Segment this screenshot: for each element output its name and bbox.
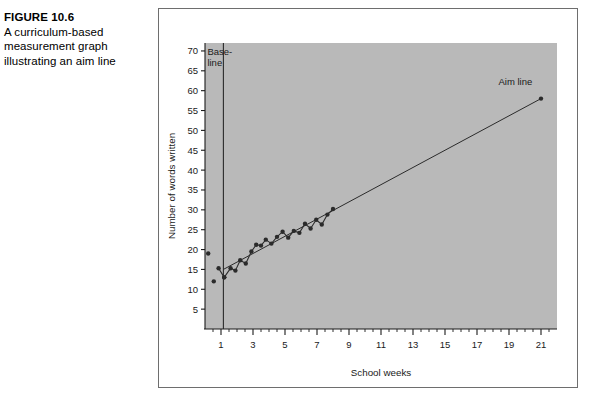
data-point-marker xyxy=(264,237,268,241)
data-point-marker xyxy=(206,251,210,255)
x-tick-label: 1 xyxy=(218,339,223,350)
data-point-marker xyxy=(297,231,301,235)
y-tick-label: 25 xyxy=(187,224,198,235)
figure-caption-line-3: illustrating an aim line xyxy=(4,54,149,69)
y-tick-label: 35 xyxy=(187,184,198,195)
x-tick-label: 7 xyxy=(314,339,319,350)
x-axis-title: School weeks xyxy=(351,367,412,378)
figure-caption-text: A curriculum-based measurement graph ill… xyxy=(4,25,149,69)
y-tick-label: 45 xyxy=(187,145,198,156)
y-tick-label: 30 xyxy=(187,204,198,215)
data-point-marker xyxy=(539,96,543,100)
figure-number: FIGURE 10.6 xyxy=(4,10,149,25)
figure-frame: 5101520253035404550556065701357911131517… xyxy=(158,8,578,388)
y-axis-title: Number of words written xyxy=(166,133,177,239)
y-tick-label: 55 xyxy=(187,105,198,116)
y-tick-label: 20 xyxy=(187,244,198,255)
data-point-marker xyxy=(212,279,216,283)
figure-caption-line-1: A curriculum-based xyxy=(4,25,149,40)
baseline-label: Base- xyxy=(207,46,232,57)
aim-line-label: Aim line xyxy=(499,76,533,87)
y-tick-label: 65 xyxy=(187,65,198,76)
y-tick-label: 70 xyxy=(187,45,198,56)
x-tick-label: 21 xyxy=(536,339,547,350)
data-point-marker xyxy=(233,268,237,272)
x-tick-label: 13 xyxy=(408,339,419,350)
y-tick-label: 10 xyxy=(187,284,198,295)
figure-caption-block: FIGURE 10.6 A curriculum-based measureme… xyxy=(4,10,149,68)
data-point-marker xyxy=(280,229,284,233)
figure-caption-line-2: measurement graph xyxy=(4,39,149,54)
data-point-marker xyxy=(259,243,263,247)
x-tick-label: 5 xyxy=(282,339,287,350)
data-point-marker xyxy=(320,222,324,226)
data-point-marker xyxy=(216,266,220,270)
y-tick-label: 15 xyxy=(187,264,198,275)
curriculum-measurement-chart: 5101520253035404550556065701357911131517… xyxy=(159,9,579,389)
x-tick-label: 3 xyxy=(250,339,255,350)
data-point-marker xyxy=(222,275,226,279)
data-point-marker xyxy=(308,226,312,230)
x-tick-label: 17 xyxy=(472,339,483,350)
y-tick-label: 40 xyxy=(187,165,198,176)
x-tick-label: 15 xyxy=(440,339,451,350)
y-tick-label: 60 xyxy=(187,85,198,96)
x-tick-label: 11 xyxy=(376,339,386,350)
y-tick-label: 50 xyxy=(187,125,198,136)
x-tick-label: 19 xyxy=(504,339,515,350)
chart-svg: 5101520253035404550556065701357911131517… xyxy=(159,9,579,389)
x-tick-label: 9 xyxy=(346,339,351,350)
data-point-marker xyxy=(286,235,290,239)
data-point-marker xyxy=(244,261,248,265)
data-point-marker xyxy=(254,243,258,247)
y-tick-label: 5 xyxy=(193,304,198,315)
baseline-label: line xyxy=(207,57,222,68)
data-point-marker xyxy=(275,235,279,239)
